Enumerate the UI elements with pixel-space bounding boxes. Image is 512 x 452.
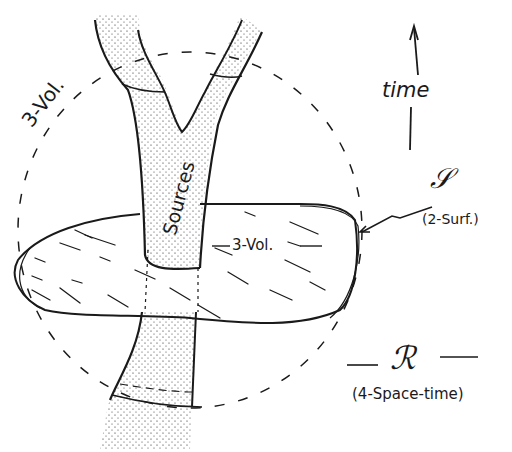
three-vol-inner-label: 3-Vol. [232, 238, 273, 253]
spacetime-diagram: 3-Vol. Sources 3-Vol. time 𝒮 (2-Surf.) ℛ… [0, 0, 512, 452]
surface-symbol: 𝒮 [430, 165, 452, 193]
region-symbol: ℛ [390, 342, 416, 374]
region-desc-label: (4-Space-time) [352, 387, 464, 402]
time-label: time [382, 80, 429, 101]
time-arrow-shaft-lower [410, 107, 411, 150]
worldtube-lower [100, 312, 196, 450]
surface-desc-label: (2-Surf.) [422, 212, 479, 226]
